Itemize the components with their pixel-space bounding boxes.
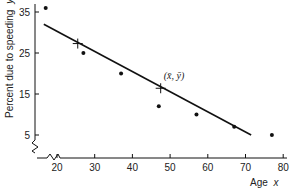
y-axis-label-text: Percent due to speeding — [4, 10, 15, 118]
scatter-chart: 203040506070805152535 Age x Percent due … — [0, 0, 292, 190]
y-tick-label: 35 — [19, 7, 31, 18]
axes — [32, 4, 287, 160]
regression-line — [44, 24, 251, 135]
x-tick-label: 50 — [165, 162, 177, 173]
x-tick-label: 60 — [202, 162, 214, 173]
x-tick-label: 70 — [240, 162, 252, 173]
data-point — [44, 6, 48, 10]
y-axis-line — [32, 4, 38, 153]
x-axis-label: Age x — [250, 177, 280, 188]
x-tick-label: 30 — [89, 162, 101, 173]
x-axis-label-text: Age — [250, 177, 268, 188]
data-series — [44, 6, 274, 137]
data-point — [270, 133, 274, 137]
data-point — [194, 113, 198, 117]
y-axis-label: Percent due to speeding y — [4, 0, 15, 118]
x-tick-label: 20 — [51, 162, 63, 173]
y-tick-label: 15 — [19, 89, 31, 100]
y-tick-label: 5 — [24, 130, 30, 141]
y-axis-variable: y — [4, 0, 15, 5]
y-tick-label: 25 — [19, 48, 31, 59]
x-tick-label: 80 — [278, 162, 290, 173]
x-tick-label: 40 — [127, 162, 139, 173]
data-point — [81, 51, 85, 55]
x-axis-variable: x — [273, 177, 280, 188]
data-point — [157, 104, 161, 108]
data-point — [119, 72, 123, 76]
mean-point-annotation: (x̄, ȳ) — [164, 70, 185, 82]
ticks: 203040506070805152535 — [19, 7, 289, 174]
x-axis-line — [37, 154, 287, 160]
